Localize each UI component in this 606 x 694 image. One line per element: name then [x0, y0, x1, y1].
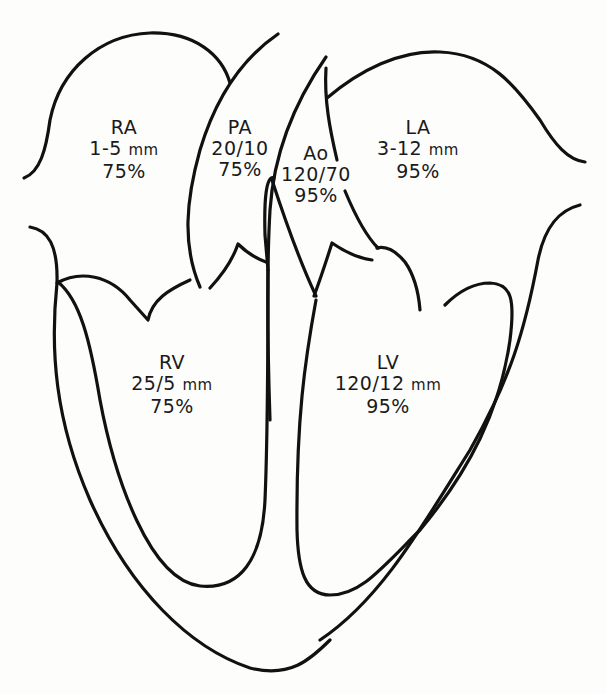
la-pressure: 3-12 mm	[377, 138, 459, 161]
rv-pressure: 25/5 mm	[131, 373, 212, 396]
ao-saturation: 95%	[281, 185, 351, 206]
rv-name: RV	[131, 352, 212, 373]
left-ventricle-outer-wall	[320, 205, 580, 640]
label-rv: RV 25/5 mm 75%	[131, 352, 212, 417]
lv-name: LV	[335, 352, 442, 373]
pa-saturation: 75%	[211, 159, 268, 180]
label-ra: RA 1-5 mm 75%	[89, 117, 158, 182]
la-saturation: 95%	[377, 161, 459, 182]
heart-diagram: RA 1-5 mm 75% PA 20/10 75% Ao 120/70 95%…	[0, 0, 606, 694]
aorta-left-wall	[268, 57, 326, 420]
heart-outer-wall	[30, 227, 330, 671]
ra-saturation: 75%	[89, 161, 158, 182]
label-pa: PA 20/10 75%	[211, 117, 268, 180]
label-la: LA 3-12 mm 95%	[377, 117, 459, 182]
pa-pressure: 20/10	[211, 138, 268, 159]
ao-name: Ao	[281, 143, 351, 164]
mitral-valve	[377, 248, 420, 310]
pulmonary-valve	[210, 244, 266, 288]
rv-saturation: 75%	[131, 396, 212, 417]
pa-name: PA	[211, 117, 268, 138]
lv-pressure: 120/12 mm	[335, 373, 442, 396]
right-ventricle-inner-wall	[58, 270, 268, 586]
left-ventricle-inner-wall	[297, 283, 512, 595]
aortic-valve	[314, 243, 372, 296]
heart-outline	[0, 0, 606, 694]
ra-pressure: 1-5 mm	[89, 138, 158, 161]
ao-pressure: 120/70	[281, 164, 351, 185]
label-ao: Ao 120/70 95%	[281, 143, 351, 206]
tricuspid-valve	[57, 276, 190, 320]
la-name: LA	[377, 117, 459, 138]
ra-name: RA	[89, 117, 158, 138]
lv-saturation: 95%	[335, 396, 442, 417]
label-lv: LV 120/12 mm 95%	[335, 352, 442, 417]
